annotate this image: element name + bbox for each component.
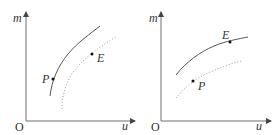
right-x-axis-label: u (256, 119, 262, 133)
right-origin-label: O (151, 120, 160, 134)
left-solid-curve (50, 26, 100, 96)
right-solid-curve (176, 37, 248, 75)
left-y-axis-label: m (13, 11, 22, 25)
right-point-p (192, 80, 195, 83)
right-point-e-label: E (221, 28, 230, 42)
right-panel: m u O E P (149, 11, 271, 134)
left-panel: m u O P E (13, 11, 135, 134)
left-point-e-label: E (96, 51, 105, 65)
left-dotted-curve (62, 37, 116, 109)
left-origin-label: O (15, 120, 24, 134)
right-dotted-curve (176, 61, 242, 98)
left-point-p-label: P (41, 72, 50, 86)
right-point-p-label: P (197, 79, 206, 93)
left-point-p (52, 78, 55, 81)
left-point-e (91, 53, 94, 56)
figure-canvas: m u O P E m u O E P (0, 0, 279, 135)
right-y-axis-label: m (149, 11, 158, 25)
left-x-axis-label: u (122, 119, 128, 133)
